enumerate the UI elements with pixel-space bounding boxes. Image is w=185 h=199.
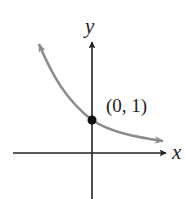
point-label: (0, 1) <box>106 95 147 117</box>
point-marker <box>88 116 97 125</box>
exponential-graph: y x (0, 1) <box>0 0 185 199</box>
x-axis-label: x <box>171 140 182 164</box>
exponential-curve <box>39 44 163 141</box>
y-axis-label: y <box>83 14 95 38</box>
